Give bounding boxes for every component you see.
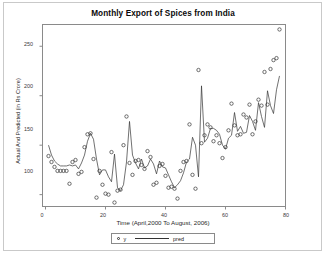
data-point: [146, 149, 149, 152]
data-point: [275, 56, 278, 59]
data-point: [50, 160, 53, 163]
data-point: [257, 98, 260, 101]
data-point: [263, 70, 266, 73]
data-point: [239, 133, 242, 136]
chart-figure: Monthly Export of Spices from India Actu…: [0, 0, 326, 255]
data-point: [149, 155, 152, 158]
data-point: [248, 103, 251, 106]
data-point: [125, 115, 128, 118]
legend-label-pred: pred: [173, 236, 184, 242]
data-point: [128, 161, 131, 164]
data-point: [212, 140, 215, 143]
data-point: [194, 187, 197, 190]
data-point: [242, 113, 245, 116]
data-point: [269, 67, 272, 70]
data-point: [230, 102, 233, 105]
data-point: [95, 196, 98, 199]
circle-marker-icon: [117, 237, 120, 240]
data-point: [179, 169, 182, 172]
data-point: [53, 165, 56, 168]
data-point: [92, 157, 95, 160]
data-point: [47, 154, 50, 157]
line-marker-icon: [135, 238, 169, 239]
data-point: [107, 193, 110, 196]
data-point: [188, 123, 191, 126]
data-point: [260, 104, 263, 107]
data-point: [164, 174, 167, 177]
data-point: [137, 158, 140, 161]
y-series-points: [47, 28, 281, 204]
data-point: [131, 173, 134, 176]
legend: y pred: [111, 233, 215, 244]
data-point: [176, 197, 179, 200]
data-point: [80, 170, 83, 173]
pred-series-line: [49, 76, 280, 191]
data-point: [221, 156, 224, 159]
data-point: [122, 143, 125, 146]
data-point: [206, 123, 209, 126]
data-point: [197, 68, 200, 71]
data-point: [101, 183, 104, 186]
data-point: [140, 163, 143, 166]
data-point: [110, 150, 113, 153]
data-point: [191, 173, 194, 176]
data-point: [245, 116, 248, 119]
data-point: [251, 133, 254, 136]
data-point: [200, 142, 203, 145]
data-point: [74, 158, 77, 161]
plot-frame: [43, 25, 286, 207]
legend-entry-pred: pred: [126, 234, 184, 243]
data-point: [155, 181, 158, 184]
data-point: [218, 142, 221, 145]
plot-area: [0, 0, 326, 255]
data-point: [68, 182, 71, 185]
data-point: [278, 28, 281, 31]
data-point: [227, 129, 230, 132]
data-point: [83, 145, 86, 148]
data-point: [113, 201, 116, 204]
data-point: [215, 134, 218, 137]
data-point: [98, 169, 101, 172]
legend-entry-y: y: [112, 234, 126, 243]
data-point: [233, 124, 236, 127]
